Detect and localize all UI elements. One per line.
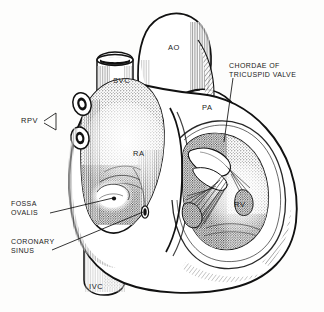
heart-anatomy-illustration <box>0 0 324 312</box>
clipped-text-top <box>4 0 124 5</box>
label-coronary-sinus: CORONARYSINUS <box>11 238 55 255</box>
clipped-text-bottom <box>6 305 318 312</box>
label-fossa-line-2: OVALIS <box>11 209 38 216</box>
label-pa: PA <box>202 104 213 113</box>
label-ivc: IVC <box>89 283 103 292</box>
label-fossa-line-1: FOSSA <box>11 200 37 207</box>
label-svc: SVC <box>113 77 130 86</box>
label-chordae-line-1: CHORDAE OF <box>229 62 280 69</box>
label-ao: AO <box>168 44 180 53</box>
label-coronary-line-2: SINUS <box>11 247 34 254</box>
fossa-ovalis-marking <box>90 179 134 213</box>
label-chordae-of-tricuspid-valve: CHORDAE OFTRICUSPID VALVE <box>229 62 296 79</box>
label-ra: RA <box>133 150 145 159</box>
label-fossa-ovalis: FOSSAOVALIS <box>11 200 38 217</box>
label-rv: RV <box>234 201 245 210</box>
label-rpv: RPV <box>21 117 38 126</box>
label-coronary-line-1: CORONARY <box>11 238 55 245</box>
label-chordae-line-2: TRICUSPID VALVE <box>229 71 296 78</box>
